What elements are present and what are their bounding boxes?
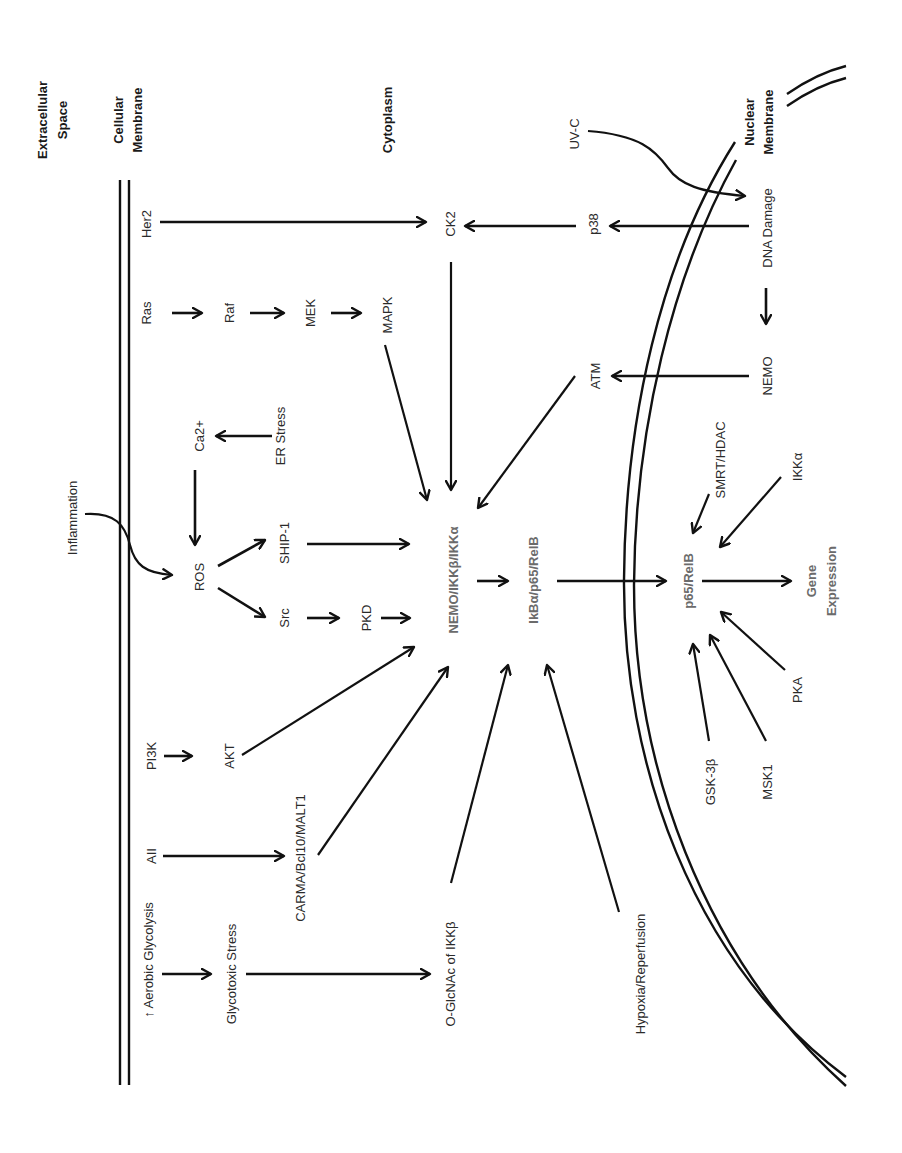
node-akt: AKT: [222, 743, 237, 768]
edge-akt-ikk: [242, 647, 414, 755]
region-nuclear-line2: Membrane: [761, 89, 776, 154]
edge-oglcnac-ikb: [451, 665, 508, 883]
node-gsk3b: GSK-3β: [703, 759, 718, 806]
edge-ikka-p65: [720, 477, 781, 547]
node-msk1: MSK1: [760, 764, 775, 799]
node-nemo-ikk-complex: NEMO/IKKβ/IKKα: [446, 527, 461, 634]
node-hypoxia: Hypoxia/Reperfusion: [633, 914, 648, 1035]
node-raf: Raf: [222, 302, 237, 323]
edge-ros-ship1: [218, 540, 265, 566]
edge-msk1-p65: [710, 635, 766, 741]
node-her2: Her2: [139, 210, 154, 238]
node-p38: p38: [586, 213, 601, 235]
edge-hypoxia-ikb: [547, 665, 619, 912]
node-gene-expression-line1: Gene: [804, 565, 819, 598]
node-pkd: PKD: [359, 605, 374, 632]
region-membrane-line1: Cellular: [111, 96, 126, 144]
edge-smrt-p65: [693, 494, 709, 533]
region-cytoplasm: Cytoplasm: [380, 87, 395, 153]
node-p65-relb: p65/RelB: [681, 553, 696, 609]
edge-gsk3b-p65: [693, 644, 709, 741]
node-pka: PKA: [790, 677, 805, 703]
node-ca2: Ca2+: [192, 420, 207, 451]
node-uvc: UV-C: [567, 118, 582, 149]
edge-pka-p65: [721, 612, 785, 670]
node-dna-damage: DNA Damage: [760, 188, 775, 267]
node-nemo-nuclear: NEMO: [760, 357, 775, 396]
node-smrt-hdac: SMRT/HDAC: [713, 421, 728, 498]
labels: Extracellular Space Cellular Membrane Cy…: [35, 81, 839, 1034]
node-atm: ATM: [588, 363, 603, 389]
region-extracellular-line2: Space: [55, 101, 70, 139]
cellular-membrane: [120, 180, 129, 1085]
edge-atm-ikk: [478, 376, 575, 508]
node-aerobic-glycolysis: ↑ Aerobic Glycolysis: [141, 902, 156, 1018]
node-er-stress: ER Stress: [273, 406, 288, 465]
region-membrane-line2: Membrane: [130, 87, 145, 152]
node-ikb-complex: IkBα/p65/RelB: [526, 536, 541, 623]
region-nuclear-line1: Nuclear: [742, 98, 757, 146]
edge-mapk-ikk: [385, 345, 427, 500]
node-glycotoxic-stress: Glycotoxic Stress: [224, 923, 239, 1024]
edges: [85, 131, 791, 974]
node-gene-expression-line2: Expression: [824, 546, 839, 616]
node-mapk: MAPK: [380, 296, 395, 333]
region-extracellular-line1: Extracellular: [35, 81, 50, 159]
node-ship1: SHIP-1: [277, 522, 292, 564]
node-pi3k: PI3K: [144, 742, 159, 771]
node-oglcnac: O-GlcNAc of IKKβ: [443, 922, 458, 1027]
nfkb-pathway-diagram: Extracellular Space Cellular Membrane Cy…: [0, 0, 902, 1153]
edge-ros-src: [218, 588, 265, 617]
node-mek: MEK: [303, 299, 318, 328]
node-aii: AII: [144, 848, 159, 864]
node-inflammation: Inflammation: [65, 481, 80, 555]
node-ros: ROS: [192, 563, 207, 592]
node-carma: CARMA/Bcl10/MALT1: [293, 794, 308, 922]
node-ikka: IKKα: [790, 452, 805, 481]
node-ck2: CK2: [443, 211, 458, 236]
node-ras: Ras: [139, 301, 154, 325]
node-src: Src: [277, 608, 292, 628]
